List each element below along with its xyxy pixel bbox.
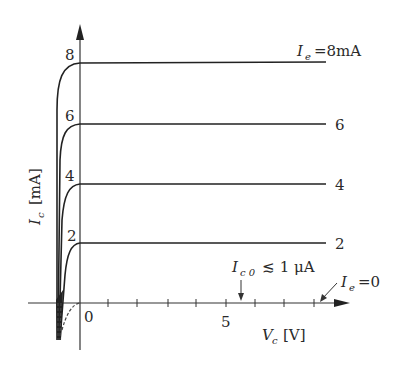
curve-label-8: I e =8mA (296, 42, 361, 62)
x-tick-0: 0 (84, 308, 94, 326)
ic0-annotation: I c 0 ≲ 1 μA (231, 258, 315, 301)
svg-text:=0: =0 (358, 273, 380, 291)
svg-text:e: e (349, 282, 355, 293)
y-axis-label: I c [mA] (26, 168, 46, 226)
characteristics-chart: 8 6 4 2 I c [mA] 0 5 V c [V] I e =8mA 6 … (0, 0, 409, 368)
svg-text:I: I (296, 42, 304, 60)
svg-text:=8mA: =8mA (314, 42, 361, 60)
svg-text:[mA]: [mA] (26, 168, 44, 205)
y-axis-arrow-icon (76, 24, 84, 40)
y-tick-2: 2 (67, 227, 77, 245)
x-axis-label: V c [V] (262, 326, 306, 346)
svg-text:c 0: c 0 (240, 267, 256, 278)
svg-text:I: I (231, 258, 239, 276)
y-tick-6: 6 (65, 107, 75, 125)
svg-text:c: c (35, 212, 46, 218)
curve-ie-6 (58, 124, 326, 340)
svg-text:I: I (340, 273, 348, 291)
svg-text:c: c (272, 335, 278, 346)
curves (57, 62, 326, 340)
curve-label-4: 4 (335, 176, 345, 194)
ie0-annotation: I e =0 (320, 273, 380, 302)
curve-label-2: 2 (335, 235, 345, 253)
svg-text:≲ 1 μA: ≲ 1 μA (262, 258, 315, 276)
curve-label-6: 6 (335, 116, 345, 134)
x-axis-arrow-icon (334, 299, 350, 307)
svg-text:e: e (305, 51, 311, 62)
y-tick-8: 8 (65, 46, 75, 64)
x-tick-5: 5 (221, 313, 231, 331)
y-tick-4: 4 (65, 167, 75, 185)
svg-text:[V]: [V] (283, 326, 306, 344)
curve-ie-8 (57, 62, 326, 340)
arrow-down-icon (238, 293, 244, 301)
svg-text:I: I (26, 218, 44, 226)
